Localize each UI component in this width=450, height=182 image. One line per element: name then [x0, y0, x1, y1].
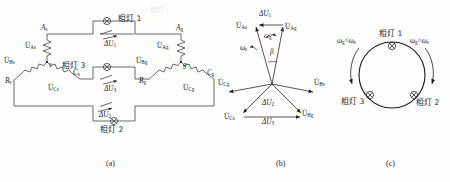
- neutral-node-s: [46, 61, 48, 63]
- c-lamp2-cross: [411, 92, 416, 97]
- label-UAg-a: U̇Ag: [157, 43, 169, 50]
- label-UCg-a: UCg: [183, 85, 194, 92]
- phasor-UBs: [272, 84, 313, 92]
- panel-a-circuit: [14, 17, 214, 124]
- label-lamp1-a: 相灯 1: [118, 15, 141, 23]
- label-lamp2-a: 相灯 2: [100, 126, 123, 134]
- dU1-arrow: [103, 36, 117, 39]
- label-dU2-a: ΔU2: [99, 112, 111, 119]
- omega-s-arc: [250, 47, 257, 50]
- figure-vector-layer: [0, 0, 450, 182]
- lead-Bs: [14, 73, 22, 80]
- caption-b: (b): [276, 160, 285, 168]
- lamp3-switch-blade: [100, 75, 112, 79]
- rotation-arrow-cw: [425, 48, 433, 84]
- lead-Bg: [148, 73, 156, 80]
- label-omega-g-b: ωg: [264, 33, 272, 40]
- label-UAs-b: U̇As: [236, 23, 247, 30]
- label-neutral-g: g: [183, 62, 187, 69]
- label-dU3-a: ΔU3: [104, 86, 116, 93]
- winding-Bs: [22, 62, 47, 73]
- label-terminal-Bs: Bs: [5, 78, 11, 85]
- label-dU1-a: ΔU1: [104, 41, 116, 48]
- phasor-UBg: [272, 84, 301, 113]
- neutral-node-g: [180, 61, 182, 63]
- label-dU1-b: ΔU̇1: [259, 11, 271, 18]
- bus-bottom-right: [135, 79, 214, 106]
- label-condition-cw: ωg>ωs: [410, 38, 429, 45]
- lamp2-switch-blade: [100, 102, 112, 106]
- label-UAs-a: U̇As: [25, 43, 36, 50]
- label-omega-s-b: ωs: [240, 45, 247, 52]
- label-dU3-b: ΔU̇3: [262, 119, 274, 126]
- label-terminal-Cg: Cg: [207, 70, 214, 77]
- c-lamp3-cross: [367, 92, 372, 97]
- label-dU2-b: ΔU̇2: [262, 100, 274, 107]
- label-UBs-a: U̇Bs: [4, 58, 15, 65]
- label-lamp3-c: 相灯 3: [341, 98, 364, 106]
- winding-Ag: [177, 40, 185, 56]
- label-UCg-b: U̇Cg: [218, 80, 229, 87]
- label-terminal-Cs: Cs: [73, 70, 80, 77]
- label-neutral-s: s: [49, 62, 52, 69]
- label-lamp2-c: 相灯 2: [416, 99, 439, 107]
- label-UCs-b: U̇Cs: [224, 114, 235, 121]
- lamp3-loop: [93, 67, 135, 79]
- dU3-arrow: [103, 81, 117, 84]
- label-lamp1-c: 相灯 1: [379, 30, 402, 38]
- label-UAg-b: U̇Ag: [285, 24, 297, 31]
- label-UBg-a: U̇Bg: [136, 58, 147, 65]
- rotation-arrow-ccw: [351, 48, 359, 84]
- figure-root: 相灯 1: [0, 0, 450, 182]
- label-condition-ccw: ωg<ωs: [337, 38, 356, 45]
- caption-c: (c): [386, 160, 395, 168]
- caption-a: (a): [106, 160, 115, 168]
- c-lamp1-cross: [389, 43, 394, 48]
- label-beta-angle: β: [270, 49, 274, 56]
- label-UCs-a: U̇Cs: [48, 85, 59, 92]
- label-terminal-Bg: Bg: [139, 78, 146, 85]
- label-terminal-As: As: [41, 25, 47, 32]
- label-terminal-Ag: Ag: [176, 25, 183, 32]
- label-UBg-b: U̇Bg: [302, 111, 313, 118]
- winding-Bg: [156, 62, 181, 73]
- winding-As: [43, 40, 51, 56]
- label-UBs-b: U̇Bs: [314, 80, 325, 87]
- bus-bottom-left: [14, 80, 93, 106]
